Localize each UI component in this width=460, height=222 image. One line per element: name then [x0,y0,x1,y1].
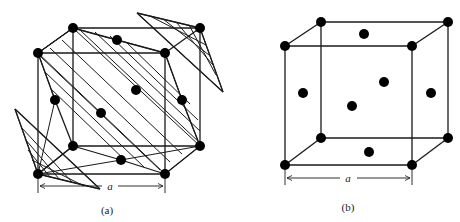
corner-atom [407,41,417,51]
face-center-atom [50,95,60,105]
face-center-atom [131,85,141,95]
caption-b: (b) [342,201,355,214]
panel-b: a (b) [280,17,453,214]
face-center-atom [298,88,308,98]
corner-atom [280,160,290,170]
face-center-atom [116,155,126,165]
corner-atom [280,41,290,51]
face-center-atom [364,147,374,157]
face-center-atom [347,101,357,111]
face-center-atom [359,29,369,39]
corner-atom [443,133,453,143]
lattice-parameter-label-b: a [345,172,351,184]
face-center-atom [96,108,106,118]
corner-atom [316,133,326,143]
face-center-atom [426,88,436,98]
face-center-atom [177,95,187,105]
corner-atom [33,169,43,179]
unit-cell-edges-b [285,22,448,165]
corner-atom [316,17,326,27]
panel-a: a (a) [15,13,223,217]
face-center-atom [379,77,389,87]
figure-canvas: a (a) [0,0,460,222]
caption-a: (a) [101,204,114,217]
corner-atom [443,17,453,27]
dimension-a: a [38,178,165,193]
atoms-b [280,17,453,170]
corner-atom [33,48,43,58]
corner-atom [195,23,205,33]
corner-atom [68,141,78,151]
corner-atom [160,169,170,179]
corner-atom [407,160,417,170]
lattice-parameter-label-a: a [107,180,113,192]
face-center-atom [112,35,122,45]
dimension-b: a [285,169,412,185]
corner-atom [68,23,78,33]
corner-atom [195,141,205,151]
corner-atom [160,48,170,58]
close-packed-plane-central [38,28,200,174]
